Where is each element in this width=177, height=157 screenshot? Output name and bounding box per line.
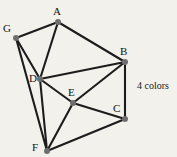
graph-vertex bbox=[44, 148, 50, 154]
graph-vertex bbox=[13, 35, 19, 41]
graph-vertex bbox=[70, 100, 76, 106]
graph-edge bbox=[40, 62, 125, 79]
vertex-label-c: C bbox=[113, 103, 120, 114]
graph-edge bbox=[47, 119, 125, 151]
graph-vertex bbox=[55, 19, 61, 25]
vertex-label-d: D bbox=[29, 73, 37, 84]
vertex-label-b: B bbox=[120, 46, 127, 57]
graph-edge bbox=[58, 22, 125, 62]
vertex-label-g: G bbox=[3, 23, 11, 34]
graph-edge bbox=[40, 22, 58, 79]
graph-edge bbox=[16, 22, 58, 38]
graph-vertex bbox=[37, 76, 43, 82]
vertex-label-a: A bbox=[53, 6, 61, 17]
graph-canvas bbox=[0, 0, 177, 157]
vertex-label-e: E bbox=[68, 87, 75, 98]
graph-vertex bbox=[122, 116, 128, 122]
graph-edge bbox=[47, 103, 73, 151]
graph-figure: ABCDEFG 4 colors bbox=[0, 0, 177, 157]
vertex-label-f: F bbox=[32, 142, 38, 153]
annotation-4-colors: 4 colors bbox=[137, 80, 169, 91]
graph-vertex bbox=[122, 59, 128, 65]
